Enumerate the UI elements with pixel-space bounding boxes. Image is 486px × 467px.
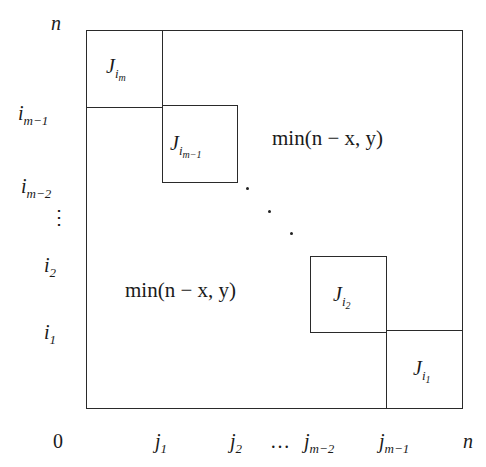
diagonal-ellipsis-dot bbox=[246, 187, 249, 190]
region-upper-right-expression: min(n − x, y) bbox=[272, 128, 383, 149]
y-label-i-1: i1 bbox=[44, 322, 56, 346]
x-label-j-2: j2 bbox=[230, 431, 242, 455]
block-label-j-im: Jim bbox=[106, 56, 126, 83]
x-label-j-m-1: jm−1 bbox=[379, 431, 409, 455]
diagonal-ellipsis-dot bbox=[290, 232, 293, 235]
y-label-i-2: i2 bbox=[44, 255, 56, 279]
y-label-i-m-2: im−2 bbox=[21, 176, 51, 200]
x-label-ellipsis: … bbox=[270, 431, 290, 451]
diagonal-ellipsis-dot bbox=[268, 210, 271, 213]
x-label-j-m-2: jm−2 bbox=[304, 431, 334, 455]
x-label-0: 0 bbox=[53, 431, 63, 451]
block-label-j-i1: Ji1 bbox=[413, 358, 431, 385]
block-label-j-i2: Ji2 bbox=[333, 284, 351, 311]
block-label-j-im-1: Jim−1 bbox=[170, 133, 202, 160]
y-label-n: n bbox=[51, 13, 61, 33]
x-label-j-1: j1 bbox=[155, 431, 167, 455]
region-lower-left-expression: min(n − x, y) bbox=[125, 280, 236, 301]
y-label-i-m-1: im−1 bbox=[18, 103, 48, 127]
x-label-n: n bbox=[463, 431, 473, 451]
y-label-vertical-ellipsis: ⋮ bbox=[49, 207, 69, 227]
